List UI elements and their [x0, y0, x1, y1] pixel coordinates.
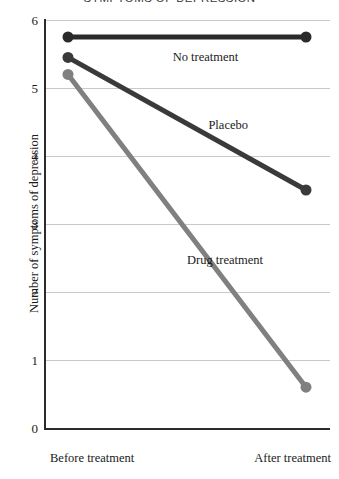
data-point-no-treatment-start: [63, 32, 74, 43]
series-drug-treatment: [63, 69, 312, 393]
data-point-placebo-end: [301, 185, 312, 196]
data-point-no-treatment-end: [301, 32, 312, 43]
series-label-placebo: Placebo: [208, 119, 248, 132]
depression-symptoms-line-chart: SYMPTOMS OF DEPRESSION 6 5 4 3 2 1 0 Num…: [0, 0, 339, 479]
data-point-drug-treatment-end: [301, 382, 312, 393]
series-label-no-treatment: No treatment: [173, 51, 239, 64]
data-point-placebo-start: [63, 52, 74, 63]
data-point-drug-treatment-start: [63, 69, 74, 80]
series-label-drug-treatment: Drug treatment: [187, 254, 263, 267]
series-layer: [0, 0, 339, 479]
series-placebo: [63, 52, 312, 196]
series-no-treatment: [63, 32, 312, 43]
